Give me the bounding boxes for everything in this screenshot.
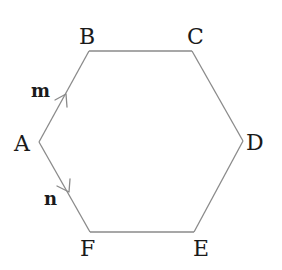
vertex-label-e: E [193,236,209,261]
vertex-label-d: D [246,130,264,155]
vector-m-arrowhead [55,94,67,107]
vector-label-m: m [31,80,50,101]
vertex-label-f: F [80,236,95,261]
vertex-label-a: A [13,131,31,156]
edge-FA [39,142,90,232]
edge-DE [194,141,243,232]
edge-CD [192,51,243,141]
vertex-label-c: C [187,24,204,49]
vector-label-n: n [44,188,57,209]
hexagon-diagram: A B C D E F m n [0,0,282,270]
vertex-label-b: B [79,24,95,49]
